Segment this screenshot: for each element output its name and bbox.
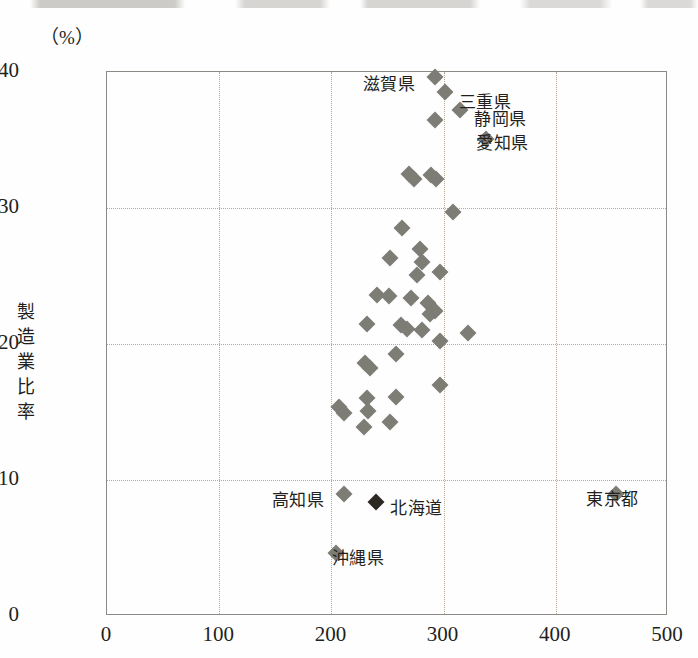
- scatter-point: [403, 289, 420, 306]
- scatter-point: [381, 413, 398, 430]
- scatter-point: [432, 376, 449, 393]
- y-axis-title: 製造業比率: [13, 300, 39, 425]
- scatter-point: [381, 250, 398, 267]
- gridline-horizontal-20: [107, 344, 666, 345]
- gridline-vertical-100: [219, 72, 220, 614]
- y-tick-label-40: 40: [0, 58, 19, 83]
- gridline-vertical-400: [556, 72, 557, 614]
- scatter-point: [335, 485, 352, 502]
- point-label-高知県: 高知県: [272, 491, 325, 510]
- gridline-horizontal-30: [107, 208, 666, 209]
- point-label-静岡県: 静岡県: [474, 110, 527, 129]
- point-label-東京都: 東京都: [586, 490, 639, 509]
- scatter-point: [414, 322, 431, 339]
- x-tick-label-200: 200: [295, 622, 365, 647]
- scatter-point: [432, 263, 449, 280]
- y-tick-label-0: 0: [0, 602, 19, 627]
- x-tick-label-0: 0: [71, 622, 141, 647]
- plot-area: 滋賀県三重県静岡県愛知県高知県北海道東京都沖縄県: [106, 71, 667, 615]
- x-tick-label-500: 500: [632, 622, 698, 647]
- scatter-point: [444, 204, 461, 221]
- scan-artifact-sliver: [0, 0, 698, 8]
- point-label-愛知県: 愛知県: [476, 134, 529, 153]
- point-label-沖縄県: 沖縄県: [332, 549, 385, 568]
- scatter-point: [426, 69, 443, 86]
- unit-label: （%）: [40, 22, 94, 49]
- scatter-point: [432, 333, 449, 350]
- scatter-point: [394, 220, 411, 237]
- scatter-point: [388, 389, 405, 406]
- x-tick-label-400: 400: [520, 622, 590, 647]
- scatter-point: [368, 493, 385, 510]
- x-tick-label-300: 300: [408, 622, 478, 647]
- x-tick-label-100: 100: [183, 622, 253, 647]
- scatter-point: [460, 325, 477, 342]
- scatter-point: [380, 288, 397, 305]
- scatter-point: [426, 111, 443, 128]
- scatter-point: [355, 418, 372, 435]
- point-label-北海道: 北海道: [390, 499, 443, 518]
- y-tick-label-20: 20: [0, 330, 19, 355]
- y-tick-label-30: 30: [0, 194, 19, 219]
- scatter-point: [388, 345, 405, 362]
- gridline-horizontal-10: [107, 480, 666, 481]
- point-label-滋賀県: 滋賀県: [363, 75, 416, 94]
- scatter-point: [436, 84, 453, 101]
- scatter-point: [360, 402, 377, 419]
- y-tick-label-10: 10: [0, 466, 19, 491]
- scatter-point: [359, 315, 376, 332]
- gridline-vertical-200: [331, 72, 332, 614]
